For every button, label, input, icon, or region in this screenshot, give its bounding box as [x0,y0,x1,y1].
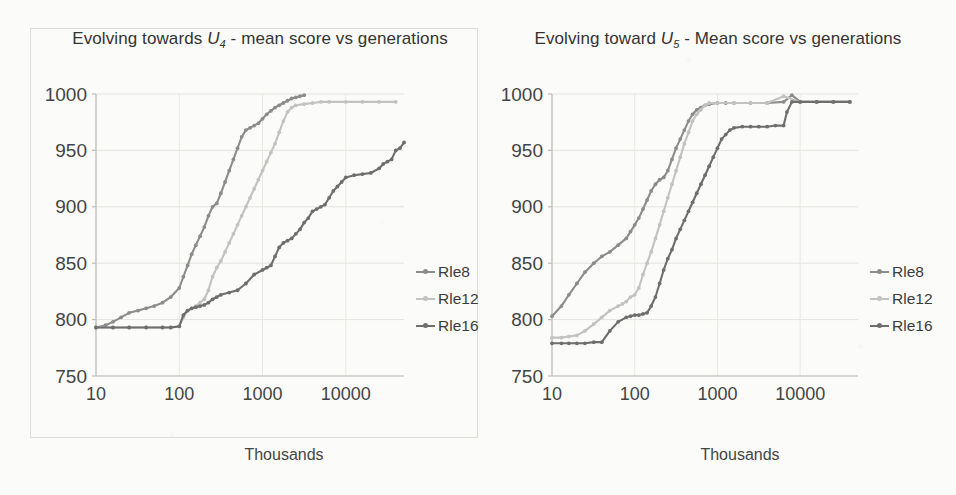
legend-marker-icon [870,321,889,331]
legend-u5: Rle8 Rle12 Rle16 [870,258,933,339]
chart-u5: Evolving toward U5 - Mean score vs gener… [484,22,952,472]
plot-area-u4: 750800850900950100010100100010000 [24,84,496,414]
chart-title-u4: Evolving towards U4 - mean score vs gene… [24,28,496,55]
y-tick-label: 900 [511,196,543,217]
x-axis-caption-u4: Thousands [204,446,364,464]
chart-title-suffix: - Mean score vs generations [679,29,901,48]
y-tick-label: 850 [55,253,87,274]
y-tick-label: 1000 [501,84,543,105]
legend-marker-icon [416,267,435,277]
legend-item-rle8[interactable]: Rle8 [416,258,479,285]
legend-marker-icon [870,267,889,277]
y-tick-label: 800 [511,309,543,330]
legend-label: Rle12 [892,291,933,307]
legend-item-rle16[interactable]: Rle16 [870,312,933,339]
y-tick-label: 950 [55,140,87,161]
legend-marker-icon [870,294,889,304]
legend-label: Rle8 [892,264,924,280]
plot-area-u5: 750800850900950100010100100010000 [484,84,952,414]
x-tick-label: 1000 [697,384,737,404]
x-axis-caption-u5: Thousands [660,446,820,464]
chart-title-u5: Evolving toward U5 - Mean score vs gener… [484,28,952,55]
chart-title-prefix: Evolving toward [535,29,661,48]
x-tick-label: 10000 [321,384,371,404]
y-tick-label: 950 [511,140,543,161]
x-tick-label: 10 [86,384,106,404]
series-rle12 [94,100,398,329]
legend-label: Rle12 [438,291,479,307]
series-rle12 [550,94,852,339]
x-tick-label: 100 [164,384,194,404]
legend-label: Rle8 [438,264,470,280]
y-tick-label: 750 [511,366,543,387]
x-tick-label: 10 [542,384,562,404]
legend-u4: Rle8 Rle12 Rle16 [416,258,479,339]
legend-label: Rle16 [438,318,479,334]
legend-item-rle16[interactable]: Rle16 [416,312,479,339]
series-rle16 [94,141,406,330]
legend-item-rle12[interactable]: Rle12 [416,285,479,312]
chart-title-prefix: Evolving towards [72,29,207,48]
plot-svg-u4: 750800850900950100010100100010000 [24,84,496,414]
legend-label: Rle16 [892,318,933,334]
legend-marker-icon [416,321,435,331]
y-tick-label: 900 [55,196,87,217]
x-tick-label: 100 [620,384,650,404]
y-tick-label: 850 [511,253,543,274]
legend-marker-icon [416,294,435,304]
series-rle8 [550,93,852,318]
y-tick-label: 750 [55,366,87,387]
x-tick-label: 1000 [243,384,283,404]
legend-item-rle12[interactable]: Rle12 [870,285,933,312]
y-tick-label: 1000 [45,84,87,105]
series-rle8 [94,93,306,329]
chart-u4: Evolving towards U4 - mean score vs gene… [24,22,496,472]
figure-sheet: Evolving towards U4 - mean score vs gene… [0,0,956,495]
chart-title-suffix: - mean score vs generations [226,29,448,48]
series-rle16 [550,100,852,345]
plot-svg-u5: 750800850900950100010100100010000 [484,84,952,414]
chart-title-variable: U4 [207,29,226,48]
chart-title-variable: U5 [661,29,680,48]
y-tick-label: 800 [55,309,87,330]
legend-item-rle8[interactable]: Rle8 [870,258,933,285]
x-tick-label: 10000 [775,384,825,404]
